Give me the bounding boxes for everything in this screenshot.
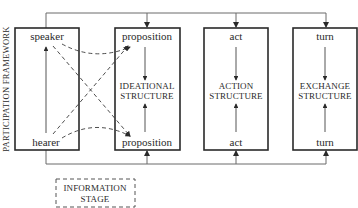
information-stage-line2: STAGE (81, 194, 110, 204)
action-bottom-label: act (230, 136, 243, 148)
speaker-to-proposition-link (62, 44, 130, 54)
exchange-bottom-label: turn (316, 136, 334, 148)
ideational-top-label: proposition (122, 30, 173, 42)
participation-box (15, 28, 79, 150)
exchange-title-line1: EXCHANGE (300, 81, 351, 91)
information-stage-line1: INFORMATION (63, 183, 127, 193)
ideational-title-line1: IDEATIONAL (120, 81, 175, 91)
ideational-title-line2: STRUCTURE (120, 91, 174, 101)
speaker-to-bottom-proposition-link (53, 46, 130, 136)
hearer-to-proposition-link (62, 127, 130, 138)
bottom-connector (46, 150, 326, 164)
action-title-line2: STRUCTURE (209, 91, 263, 101)
discourse-model-diagram: PARTICIPATION FRAMEWORK speaker hearer p… (0, 0, 358, 208)
participation-framework-label: PARTICIPATION FRAMEWORK (1, 26, 11, 152)
action-title-line1: ACTION (219, 81, 254, 91)
action-top-label: act (230, 30, 243, 42)
speaker-label: speaker (30, 30, 64, 42)
hearer-label: hearer (32, 136, 60, 148)
exchange-top-label: turn (316, 30, 334, 42)
ideational-bottom-label: proposition (122, 136, 173, 148)
exchange-title-line2: STRUCTURE (298, 91, 352, 101)
top-connector (46, 13, 326, 28)
